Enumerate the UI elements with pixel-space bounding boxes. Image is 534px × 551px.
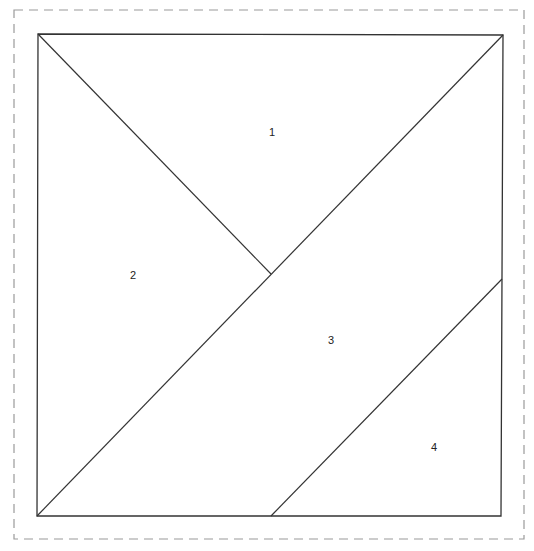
piece-label-2: 2 [130,269,136,281]
piece-label-3: 3 [328,334,334,346]
diagonal-top-left-line [38,34,271,274]
piece-label-1: 1 [269,126,275,138]
diagram-canvas: 1 2 3 4 [0,0,534,551]
dashed-border [14,10,524,539]
piece-label-4: 4 [431,441,437,453]
parallel-bottom-right-line [271,279,502,516]
